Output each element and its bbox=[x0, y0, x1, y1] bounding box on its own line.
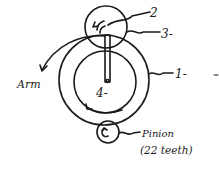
gear-2-inner-arc-icon bbox=[100, 26, 105, 33]
gear-2-leader-line bbox=[108, 12, 150, 25]
gear-3-leader-line bbox=[127, 31, 160, 33]
gear-3-label: 3- bbox=[161, 27, 173, 41]
arm-pivot-icon bbox=[106, 80, 109, 83]
gear-3-rotation-arrowhead-icon bbox=[93, 22, 98, 27]
gear-1-label: 1- bbox=[175, 67, 187, 81]
pinion-leader-line bbox=[119, 132, 140, 134]
pinion-label: Pinion bbox=[141, 128, 174, 139]
arm-rod bbox=[105, 35, 110, 82]
gear-1-leader-line bbox=[149, 73, 173, 75]
pinion-teeth-label: (22 teeth) bbox=[140, 144, 193, 156]
gear-4-label: 4- bbox=[95, 86, 108, 100]
gear-3-circle bbox=[85, 6, 127, 48]
gear-2-label: 2 bbox=[149, 6, 158, 20]
arm-label: Arm bbox=[16, 78, 41, 91]
gear-train-diagram: 2 3- 1- 4- Arm Pinion (22 teeth) bbox=[0, 0, 219, 175]
gear-4-arrowhead-icon bbox=[86, 104, 92, 109]
